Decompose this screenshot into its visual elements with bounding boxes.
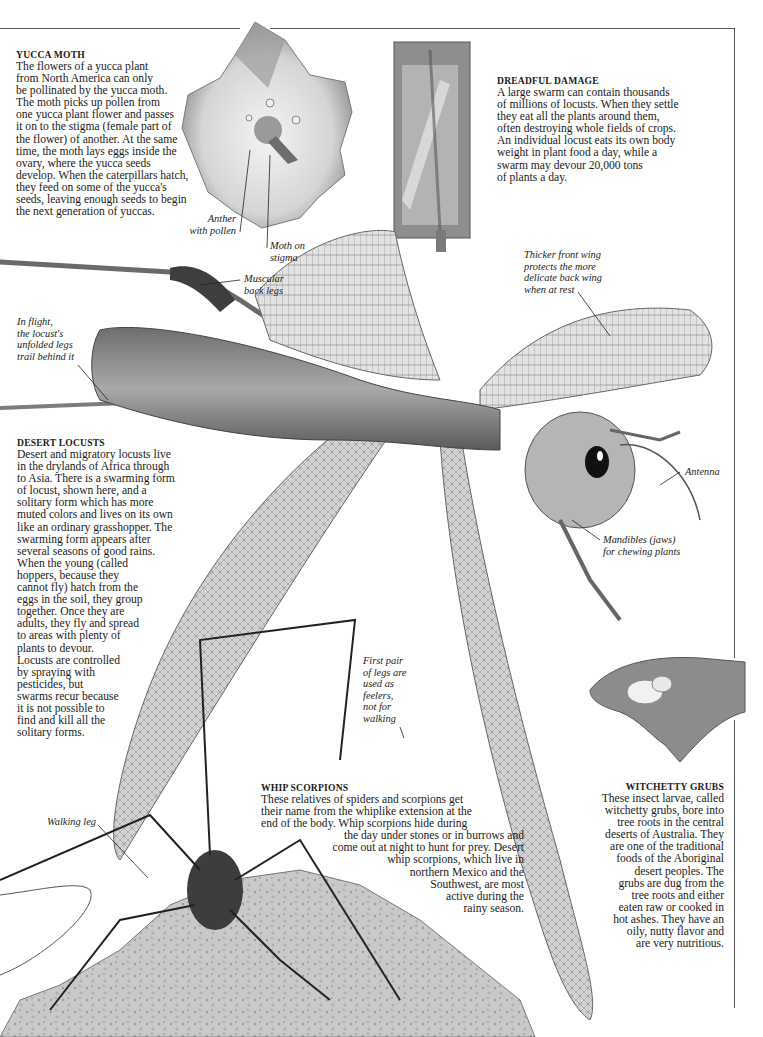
caption-muscular-back-legs: Muscular back legs	[244, 273, 314, 296]
desert-locusts-line: swarming form appears after	[17, 534, 192, 546]
desert-locusts-line: like an ordinary grasshopper. The	[17, 522, 192, 534]
whip-scorpions-section: WHIP SCORPIONS These relatives of spider…	[261, 782, 524, 915]
dreadful-damage-section: DREADFUL DAMAGE A large swarm can contai…	[497, 75, 697, 184]
caption-first-pair-legs: First pair of legs are used as feelers, …	[363, 655, 423, 724]
desert-locusts-line: solitary forms.	[17, 727, 192, 739]
caption-in-flight: In flight, the locust's unfolded legs tr…	[17, 316, 97, 362]
witchetty-grubs-line: foods of the Aboriginal	[600, 853, 724, 865]
yucca-flower-image	[182, 22, 352, 228]
whip-scorpions-line: whip scorpions, which live in	[261, 854, 524, 866]
yucca-moth-line: the flower) of another. At the same	[16, 134, 196, 146]
desert-locusts-line: to areas with plenty of	[17, 630, 192, 642]
whip-scorpions-line: northern Mexico and the	[261, 867, 524, 879]
damaged-frame-image	[394, 42, 470, 252]
yucca-moth-line: time, the moth lays eggs inside the	[16, 146, 196, 158]
caption-anther: Anther with pollen	[170, 213, 236, 236]
desert-locusts-line: plants to devour.	[17, 643, 192, 655]
whip-scorpions-line: rainy season.	[261, 903, 524, 915]
dreadful-damage-line: swarm may devour 20,000 tons	[497, 160, 697, 172]
dreadful-damage-line: weight in plant food a day, while a	[497, 147, 697, 159]
hand-grubs-image	[590, 657, 745, 762]
witchetty-grubs-line: are very nutritious.	[600, 938, 724, 950]
desert-locusts-section: DESERT LOCUSTS Desert and migratory locu…	[17, 437, 192, 739]
yucca-moth-line: it on to the stigma (female part of	[16, 121, 196, 133]
witchetty-grubs-section: WITCHETTY GRUBS These insect larvae, cal…	[600, 781, 724, 950]
caption-moth-on-stigma: Moth on stigma	[270, 240, 330, 263]
yucca-moth-line: the next generation of yuccas.	[16, 206, 196, 218]
desert-locusts-line: muted colors and lives on its own	[17, 509, 192, 521]
caption-walking-leg: Walking leg	[47, 816, 117, 828]
caption-antenna: Antenna	[685, 466, 735, 478]
witchetty-grubs-line: desert peoples. The	[600, 866, 724, 878]
caption-thicker-front-wing: Thicker front wing protects the more del…	[524, 249, 634, 295]
dreadful-damage-line: of plants a day.	[497, 172, 697, 184]
caption-mandibles: Mandibles (jaws) for chewing plants	[603, 534, 713, 557]
desert-locusts-line: Locusts are controlled	[17, 655, 192, 667]
desert-locusts-line: by spraying with	[17, 667, 192, 679]
whip-scorpions-line: Southwest, are most	[261, 879, 524, 891]
witchetty-grubs-line: grubs are dug from the	[600, 878, 724, 890]
yucca-moth-section: YUCCA MOTH The flowers of a yucca plant …	[16, 49, 196, 218]
